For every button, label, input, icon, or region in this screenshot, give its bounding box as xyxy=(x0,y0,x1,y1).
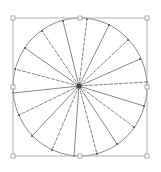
spoke-line[interactable] xyxy=(19,86,79,115)
spoke-endpoint-node[interactable] xyxy=(24,47,26,49)
spoke-line[interactable] xyxy=(79,25,109,86)
spoke-line[interactable] xyxy=(13,86,79,93)
resize-handle-top-right[interactable] xyxy=(145,16,149,20)
resize-handle-middle-right[interactable] xyxy=(145,85,149,89)
wheel-hub-center xyxy=(77,84,82,89)
resize-handle-bottom-left[interactable] xyxy=(11,154,15,158)
spoke-line[interactable] xyxy=(32,86,79,136)
drawing-canvas[interactable] xyxy=(0,0,161,172)
spoke-line[interactable] xyxy=(79,86,97,154)
resize-handle-top-middle[interactable] xyxy=(78,16,82,20)
spoke-endpoint-node[interactable] xyxy=(31,135,33,137)
spoke-line[interactable] xyxy=(79,59,140,86)
spoke-endpoint-node[interactable] xyxy=(127,39,129,41)
spoke-endpoint-node[interactable] xyxy=(14,68,16,70)
spoke-endpoint-node[interactable] xyxy=(116,143,118,145)
spoke-line[interactable] xyxy=(79,19,87,86)
spoke-endpoint-node[interactable] xyxy=(62,20,64,22)
spoke-endpoint-node[interactable] xyxy=(18,114,20,116)
spoke-endpoint-node[interactable] xyxy=(96,153,98,155)
spoke-endpoint-node[interactable] xyxy=(143,105,145,107)
resize-handle-bottom-middle[interactable] xyxy=(78,154,82,158)
spoke-endpoint-node[interactable] xyxy=(51,149,53,151)
spoke-line[interactable] xyxy=(79,86,134,127)
spoke-endpoint-node[interactable] xyxy=(41,30,43,32)
resize-handle-top-left[interactable] xyxy=(11,16,15,20)
spoke-line[interactable] xyxy=(79,40,128,86)
resize-handle-bottom-right[interactable] xyxy=(145,154,149,158)
spoked-wheel-drawing[interactable] xyxy=(0,0,161,172)
spoke-line[interactable] xyxy=(79,86,144,106)
spoke-endpoint-node[interactable] xyxy=(133,126,135,128)
spoke-line[interactable] xyxy=(79,82,147,86)
spoke-endpoint-node[interactable] xyxy=(139,58,141,60)
spoke-line[interactable] xyxy=(79,86,117,144)
spoke-endpoint-node[interactable] xyxy=(108,24,110,26)
resize-handle-middle-left[interactable] xyxy=(11,85,15,89)
